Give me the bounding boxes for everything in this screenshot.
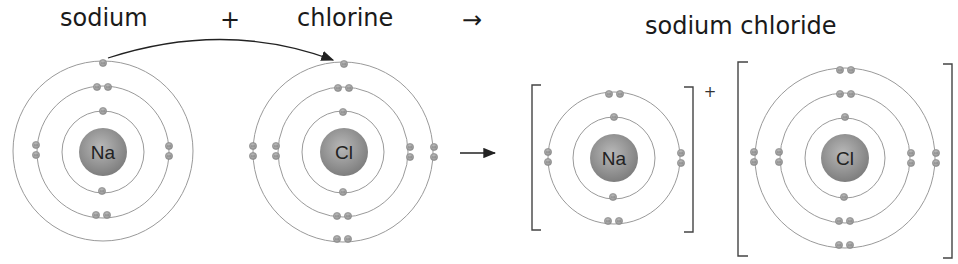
electron-transfer-arrow xyxy=(108,39,333,60)
chloride-ion: Cl xyxy=(738,62,952,258)
sodium-atom: Na xyxy=(13,59,193,241)
sodium-symbol: Na xyxy=(91,142,116,163)
sodium-ion: + Na xyxy=(532,83,716,232)
chlorine-atom: Cl xyxy=(249,60,437,242)
chloride-ion-symbol: Cl xyxy=(836,148,854,169)
sodium-ion-charge: + xyxy=(704,83,717,101)
sodium-ion-symbol: Na xyxy=(602,148,627,169)
chlorine-symbol: Cl xyxy=(335,142,353,163)
ionic-bond-diagram: Na Cl + Na xyxy=(0,0,958,264)
